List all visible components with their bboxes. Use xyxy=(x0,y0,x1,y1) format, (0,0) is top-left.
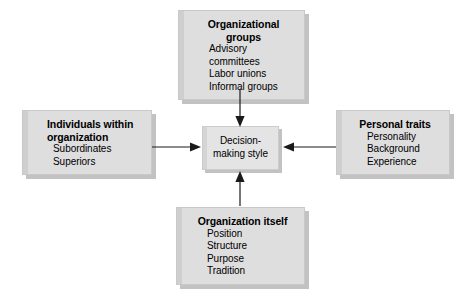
node-heading: Personal traits xyxy=(351,118,439,131)
list-item: Structure xyxy=(207,240,294,253)
list-item: Informal groups xyxy=(209,81,294,94)
node-personal-traits[interactable]: Personal traits Personality Background E… xyxy=(336,110,450,175)
node-item-list: Position Structure Purpose Tradition xyxy=(191,228,294,278)
arrow-personal-traits-to-center xyxy=(283,142,336,151)
list-item: Superiors xyxy=(53,156,141,169)
node-body: Personal traits Personality Background E… xyxy=(337,111,449,174)
node-item-list: Subordinates Superiors xyxy=(37,143,141,168)
list-item: Purpose xyxy=(207,253,294,266)
list-item: Advisory committees xyxy=(209,43,294,68)
node-organizational-groups[interactable]: Organizational groups Advisory committee… xyxy=(178,10,305,100)
diagram-canvas: Organizational groups Advisory committee… xyxy=(0,0,476,301)
node-body: Organizational groups Advisory committee… xyxy=(179,11,304,99)
node-heading: Individuals within organization xyxy=(37,118,141,143)
center-node-label: Decision- making style xyxy=(213,135,268,160)
arrow-individuals-to-center xyxy=(152,142,201,151)
node-body: Individuals within organization Subordin… xyxy=(23,111,151,174)
node-item-list: Advisory committees Labor unions Informa… xyxy=(193,43,294,93)
list-item: Tradition xyxy=(207,265,294,278)
node-heading: Organizational groups xyxy=(193,18,294,43)
list-item: Labor unions xyxy=(209,68,294,81)
node-decision-making-style[interactable]: Decision- making style xyxy=(202,126,279,170)
list-item: Subordinates xyxy=(53,143,141,156)
list-item: Personality xyxy=(367,131,439,144)
node-body: Organization itself Position Structure P… xyxy=(177,208,304,284)
list-item: Position xyxy=(207,228,294,241)
node-heading: Organization itself xyxy=(191,215,294,228)
list-item: Experience xyxy=(367,156,439,169)
arrow-organization-itself-to-center xyxy=(235,171,244,206)
node-organization-itself[interactable]: Organization itself Position Structure P… xyxy=(176,207,305,285)
node-item-list: Personality Background Experience xyxy=(351,131,439,169)
node-individuals-within-organization[interactable]: Individuals within organization Subordin… xyxy=(22,110,152,175)
list-item: Background xyxy=(367,143,439,156)
